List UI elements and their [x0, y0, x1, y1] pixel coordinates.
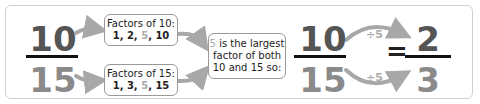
- result-numerator: 2: [413, 22, 443, 56]
- factors-title: Factors of 15:: [105, 68, 177, 80]
- result-denominator: 3: [413, 63, 443, 97]
- arrow-icon: [177, 34, 202, 42]
- right-fraction-bar: [294, 55, 346, 58]
- right-denominator: 15: [298, 63, 348, 97]
- right-numerator: 10: [298, 22, 348, 56]
- conclusion-line1: 5 is the largest: [209, 38, 285, 50]
- divide-top-label: ÷5: [366, 28, 383, 41]
- factors-list: 1, 2, 5, 10: [105, 30, 177, 42]
- factors-title: Factors of 10:: [105, 18, 177, 30]
- conclusion-line3: 10 and 15 so:: [209, 62, 285, 74]
- factors-of-10-box: Factors of 10: 1, 2, 5, 10: [104, 14, 178, 46]
- arrow-icon: [76, 29, 96, 34]
- equals-sign: =: [386, 41, 408, 61]
- arrow-icon: [177, 74, 202, 81]
- divide-bottom-label: ÷5: [366, 71, 383, 84]
- factors-list: 1, 3, 5, 15: [105, 80, 177, 92]
- conclusion-line2: factor of both: [209, 50, 285, 62]
- factors-of-15-box: Factors of 15: 1, 3, 5, 15: [104, 64, 178, 96]
- arrow-icon: [76, 76, 96, 81]
- result-fraction-bar: [405, 55, 451, 58]
- conclusion-box: 5 is the largest factor of both 10 and 1…: [208, 33, 286, 79]
